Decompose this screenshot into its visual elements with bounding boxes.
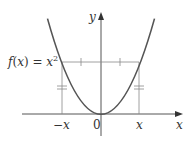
y-axis-label: y: [88, 10, 96, 24]
y-axis-arrow-icon: [98, 12, 104, 20]
parabola-diagram: f(x) = x2 y x 0 −x x: [0, 0, 189, 143]
x-axis-arrow-icon: [175, 111, 183, 117]
pos-x-label: x: [136, 118, 143, 132]
function-label: f(x) = x2: [7, 54, 58, 69]
neg-x-label: −x: [53, 118, 70, 132]
origin-label: 0: [93, 118, 101, 132]
x-axis-label: x: [176, 118, 183, 132]
